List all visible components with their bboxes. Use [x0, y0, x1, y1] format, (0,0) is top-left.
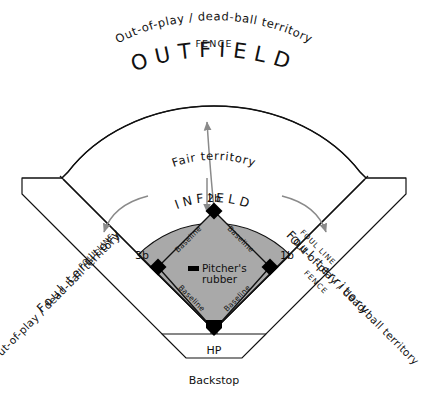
out-of-play-left-label: Out-of-play / dead-ball territory — [0, 230, 122, 364]
fair-territory-label: Fair territory — [170, 149, 258, 170]
pitchers-rubber-marker — [188, 266, 199, 271]
field-svg: Out-of-play / dead-ball territory OUTFIE… — [0, 0, 428, 400]
baseball-field-diagram: Out-of-play / dead-ball territory OUTFIE… — [0, 0, 428, 400]
third-base-label: 3b — [135, 249, 149, 262]
first-base-label: 1b — [280, 249, 294, 262]
backstop-label: Backstop — [189, 374, 239, 387]
out-of-play-right-label: Out-of-play / dead-ball territory — [288, 233, 422, 367]
second-base-label: 2b — [207, 192, 221, 205]
pitchers-rubber-label-line2: rubber — [202, 273, 238, 285]
fence-top-label: FENCE — [195, 38, 232, 49]
outfield-fence-group — [22, 106, 406, 178]
arrow-curve-right — [282, 196, 326, 232]
home-plate-label: HP — [207, 344, 222, 357]
